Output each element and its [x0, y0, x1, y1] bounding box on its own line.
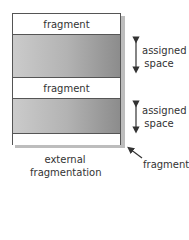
caption-line1: external: [30, 153, 100, 166]
fragment-pointer-label: fragment: [143, 158, 187, 171]
assigned-space-1-line1: assigned: [142, 44, 176, 57]
assigned-space-1-line2: space: [142, 57, 176, 70]
assigned-space-2-line2: space: [142, 117, 176, 130]
assigned-space-2-line1: assigned: [142, 104, 176, 117]
pointer-arrow-icon: [130, 149, 142, 158]
caption-line2: fragmentation: [30, 166, 100, 179]
assigned-space-label-1: assigned space: [142, 44, 176, 70]
external-fragmentation-caption: external fragmentation: [30, 153, 100, 179]
assigned-space-label-2: assigned space: [142, 104, 176, 130]
